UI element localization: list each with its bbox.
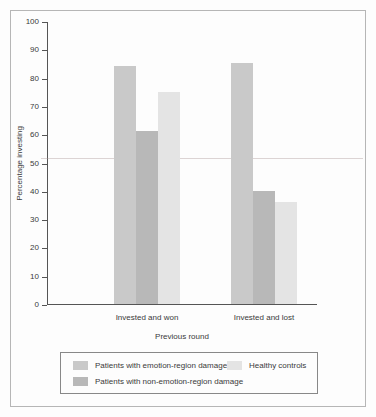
y-axis-tick-label: 90 [30, 44, 39, 55]
bar [253, 191, 275, 304]
legend-entry-healthy-controls: Healthy controls [227, 360, 306, 371]
y-axis-tick-mark [42, 248, 47, 249]
legend-swatch-healthy-controls [227, 361, 242, 370]
legend-entry-non-emotion-region: Patients with non-emotion-region damage [73, 376, 243, 387]
y-axis-tick-label: 100 [26, 16, 39, 27]
y-axis-tick-label: 20 [30, 242, 39, 253]
bar [275, 202, 297, 304]
legend: Patients with emotion-region damage Pati… [60, 352, 318, 394]
bar [136, 131, 158, 304]
bar [231, 63, 253, 304]
y-axis-title: Percentage investing [14, 22, 26, 305]
x-axis-title: Previous round [47, 331, 317, 342]
y-axis-tick-label: 40 [30, 186, 39, 197]
figure-container: 0102030405060708090100 Percentage invest… [0, 0, 376, 417]
y-axis-tick-mark [42, 305, 47, 306]
y-axis-tick-label: 0 [35, 299, 39, 310]
y-axis-tick-mark [42, 107, 47, 108]
y-axis-tick-label: 70 [30, 101, 39, 112]
y-axis-tick-mark [42, 164, 47, 165]
legend-swatch-non-emotion-region [73, 377, 88, 386]
legend-swatch-emotion-region [73, 361, 88, 370]
y-axis-tick-label: 30 [30, 214, 39, 225]
y-axis-tick-mark [42, 22, 47, 23]
y-axis-tick-label: 60 [30, 129, 39, 140]
y-axis-tick-mark [42, 192, 47, 193]
y-axis-tick-mark [42, 135, 47, 136]
legend-entry-emotion-region: Patients with emotion-region damage [73, 360, 227, 371]
y-axis-tick-mark [42, 79, 47, 80]
y-axis-tick-label: 80 [30, 73, 39, 84]
plot-area: 0102030405060708090100 [47, 22, 317, 305]
y-axis-tick-label: 10 [30, 271, 39, 282]
y-axis-tick-mark [42, 50, 47, 51]
scan-artifact-line [41, 158, 363, 159]
x-axis-category-label: Invested and lost [204, 312, 324, 323]
x-axis-line [47, 304, 317, 305]
legend-label-healthy-controls: Healthy controls [249, 360, 306, 371]
y-axis-tick-label: 50 [30, 158, 39, 169]
legend-label-emotion-region: Patients with emotion-region damage [95, 360, 227, 371]
legend-label-non-emotion-region: Patients with non-emotion-region damage [95, 376, 243, 387]
y-axis-tick-mark [42, 277, 47, 278]
y-axis-line [47, 22, 48, 305]
bar [158, 92, 180, 304]
y-axis-tick-mark [42, 220, 47, 221]
bar [114, 66, 136, 304]
x-axis-category-label: Invested and won [87, 312, 207, 323]
